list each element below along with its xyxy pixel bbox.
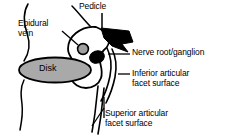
label-superior-articular-facet-surface: Superior articular facet surface (105, 109, 168, 128)
label-nerve-root-ganglion: Nerve root/ganglion (132, 48, 204, 58)
superior-articular-facet-shape-inner (98, 88, 104, 134)
anatomy-figure: Pedicle Epidural vein Nerve root/ganglio… (0, 0, 232, 140)
label-epidural-vein: Epidural vein (18, 19, 48, 38)
epidural-vein-shape (78, 44, 89, 55)
label-disk: Disk (39, 63, 57, 73)
inferior-articular-facet-shape-inner (106, 49, 116, 103)
label-pedicle: Pedicle (79, 2, 106, 12)
anterior-contour-lower (20, 80, 24, 130)
label-inferior-articular-facet-surface: Inferior articular facet surface (132, 69, 189, 88)
